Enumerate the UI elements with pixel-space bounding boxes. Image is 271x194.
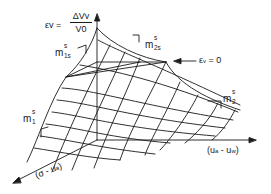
vertical-axis-arrowhead [95,14,100,21]
mesh-line [160,95,198,150]
slope-label-m2s: m s 2s [145,40,153,50]
zero-arrowhead [174,59,181,64]
net-stress-axis-arrowhead [13,177,21,183]
equation-fraction: ΔVv V0 [70,12,92,34]
slope-label-m2: m s 2 [223,94,231,104]
suction-axis-arrowhead [249,138,256,143]
mesh-line [120,62,166,160]
net-stress-axis [18,140,97,180]
slope-marker-m1 [41,127,48,137]
mesh-line [62,88,233,120]
slope-marker-m1s [78,45,86,53]
slope-label-m1s: m s 1s [55,48,63,58]
mesh-line [40,136,155,154]
suction-axis-label: (ua - uw) [207,146,239,155]
epsilon-v-label: εv = [45,21,61,30]
mesh-line [80,65,238,112]
slope-marker-m2s [133,35,139,42]
equation-numerator: ΔVv [70,12,92,23]
slope-label-m1: m s 1 [23,114,31,124]
zero-strain-label: εv = 0 [199,56,221,65]
mesh-line [98,40,240,105]
equation-denominator: V0 [70,23,92,34]
mesh-line [52,45,110,172]
mesh-line [212,110,235,140]
